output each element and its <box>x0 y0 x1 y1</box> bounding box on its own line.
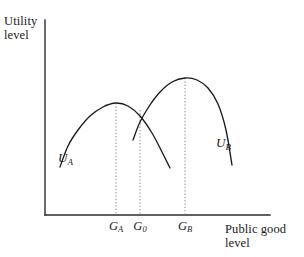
tick-symbol: G <box>133 219 142 233</box>
axis-lines <box>45 20 270 215</box>
x-tick-label-gb: GB <box>178 219 192 234</box>
curve-ua <box>60 103 170 168</box>
curve-symbol: U <box>58 150 67 165</box>
curve-label-ua: UA <box>58 150 73 166</box>
x-axis-label-line2: level <box>225 236 286 250</box>
curve-label-ub: UB <box>216 135 231 151</box>
tick-symbol: G <box>178 219 187 233</box>
figure-container: Utility level Public good level GA G0 GB… <box>0 0 304 257</box>
guide-lines-group <box>116 78 185 215</box>
plot-area <box>0 0 304 257</box>
x-tick-label-g0: G0 <box>133 219 146 234</box>
curve-symbol: U <box>216 135 225 150</box>
curves-group <box>60 78 232 168</box>
tick-subscript: A <box>118 224 123 234</box>
tick-subscript: B <box>187 224 192 234</box>
y-axis-label: Utility level <box>4 14 37 42</box>
curve-subscript: B <box>226 142 232 152</box>
tick-symbol: G <box>109 219 118 233</box>
x-axis-label: Public good level <box>225 222 286 250</box>
curve-ub <box>133 78 232 165</box>
y-axis-label-line2: level <box>4 28 37 42</box>
curve-subscript: A <box>68 157 74 167</box>
tick-subscript: 0 <box>143 224 147 234</box>
y-axis-label-line1: Utility <box>4 14 37 28</box>
x-tick-label-ga: GA <box>109 219 123 234</box>
x-axis-label-line1: Public good <box>225 222 286 236</box>
